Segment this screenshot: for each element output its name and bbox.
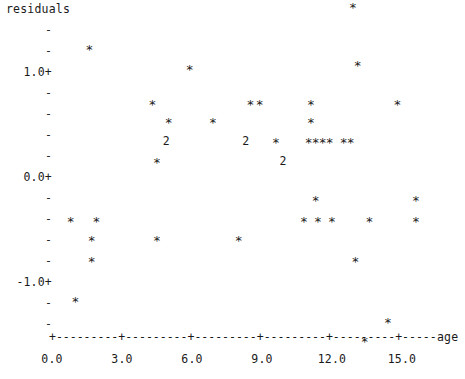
data-point: *	[354, 60, 362, 72]
data-point: *	[256, 99, 264, 111]
y-axis-title: residuals	[6, 2, 70, 16]
data-point: *	[165, 118, 173, 130]
y-axis-tick-minor: -	[0, 107, 52, 121]
data-point: *	[300, 216, 308, 228]
data-point: *	[88, 256, 96, 268]
data-point: *	[92, 216, 100, 228]
y-axis-tick-major: -1.0+	[0, 275, 52, 289]
data-point-multi: 2	[163, 137, 170, 149]
data-point: *	[312, 195, 320, 207]
data-point: *	[314, 216, 322, 228]
x-axis-tick-label: 0.0	[27, 352, 77, 366]
data-point: *	[67, 216, 75, 228]
data-point: *	[393, 99, 401, 111]
y-axis-tick-minor: -	[0, 86, 52, 100]
data-point: *	[328, 216, 336, 228]
y-axis-tick-minor: -	[0, 149, 52, 163]
y-axis-tick-minor: -	[0, 44, 52, 58]
data-point: *	[246, 99, 254, 111]
x-axis-tick-label: 9.0	[237, 352, 287, 366]
data-point: *	[235, 235, 243, 247]
data-point: *	[85, 44, 93, 56]
y-axis-tick-minor: -	[0, 212, 52, 226]
data-point: *	[307, 99, 315, 111]
y-axis-tick-minor: -	[0, 191, 52, 205]
y-axis-tick-major: 1.0+	[0, 65, 52, 79]
x-axis-tick-label: 15.0	[377, 352, 427, 366]
y-axis-tick-minor: -	[0, 296, 52, 310]
y-axis-tick-major: 0.0+	[0, 170, 52, 184]
data-point: *	[186, 64, 194, 76]
data-point: *	[412, 216, 420, 228]
y-axis-tick-minor: -	[0, 233, 52, 247]
data-point: *	[272, 138, 280, 150]
data-point: *	[349, 2, 357, 14]
y-axis-tick-minor: -	[0, 128, 52, 142]
data-point: *	[351, 256, 359, 268]
data-point: *	[412, 195, 420, 207]
data-point: *	[326, 138, 334, 150]
y-axis-tick-minor: -	[0, 254, 52, 268]
data-point: *	[153, 235, 161, 247]
y-axis-tick-minor: -	[0, 317, 52, 331]
data-point: *	[71, 296, 79, 308]
y-axis-tick-minor: -	[0, 23, 52, 37]
data-point: *	[347, 138, 355, 150]
data-point: *	[209, 118, 217, 130]
character-scatter-plot: residuals --1.0+----0.0+-----1.0+-- ****…	[0, 0, 465, 379]
x-axis-line: +---------+---------+---------+---------…	[49, 330, 444, 344]
x-axis-tick-label: 6.0	[167, 352, 217, 366]
data-point: *	[153, 158, 161, 170]
data-point: *	[307, 118, 315, 130]
data-point: *	[148, 99, 156, 111]
data-point: *	[384, 317, 392, 329]
data-point-multi: 2	[242, 137, 249, 149]
data-point: *	[88, 235, 96, 247]
data-point: *	[365, 216, 373, 228]
x-axis-tick-label: 3.0	[97, 352, 147, 366]
x-axis-tick-label: 12.0	[307, 352, 357, 366]
data-point-multi: 2	[280, 157, 287, 169]
x-axis-title: age	[437, 330, 458, 344]
